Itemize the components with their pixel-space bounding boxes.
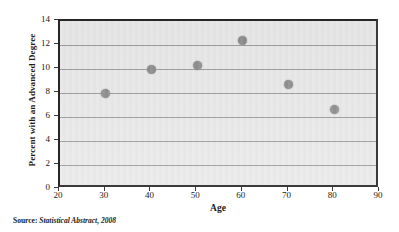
source-caption: Source: Statistical Abstract, 2008 [13,216,116,225]
x-tick-label: 50 [175,190,215,201]
x-tick-label: 80 [312,190,352,201]
x-tick-mark [378,187,379,191]
x-tick-label: 30 [84,190,124,201]
scatter-chart-figure: Percent with an Advanced Degree 02468101… [0,0,399,232]
x-axis-ticks: 2030405060708090 [0,0,399,232]
x-tick-mark [241,187,242,191]
x-tick-mark [149,187,150,191]
x-tick-label: 90 [358,190,398,201]
x-tick-label: 60 [221,190,261,201]
source-label: Source: [13,216,39,225]
x-tick-mark [104,187,105,191]
x-axis-title: Age [58,203,378,213]
x-tick-mark [332,187,333,191]
x-tick-mark [58,187,59,191]
x-tick-mark [195,187,196,191]
x-tick-mark [287,187,288,191]
x-tick-label: 40 [129,190,169,201]
source-work-title: Statistical Abstract, 2008 [39,216,116,225]
x-tick-label: 20 [38,190,78,201]
x-tick-label: 70 [267,190,307,201]
